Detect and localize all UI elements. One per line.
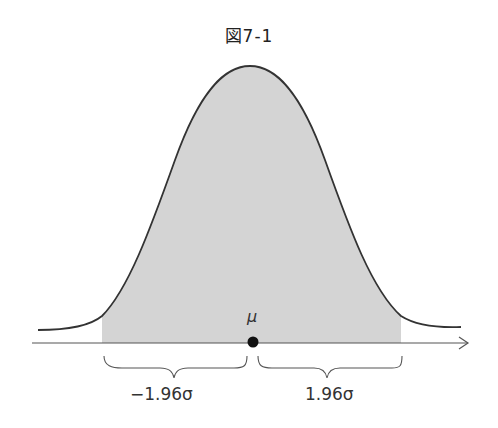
mean-point (248, 337, 259, 348)
shaded-region (102, 66, 401, 343)
right-brace (258, 356, 402, 378)
left-interval-label: −1.96σ (130, 384, 193, 404)
right-interval-label: 1.96σ (305, 384, 354, 404)
normal-distribution-diagram: μ −1.96σ 1.96σ (0, 0, 498, 428)
mean-label: μ (246, 307, 257, 326)
left-brace (104, 356, 247, 378)
